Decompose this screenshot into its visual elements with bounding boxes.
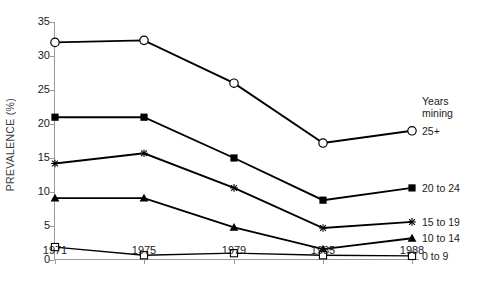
- y-tick-label: 5: [24, 220, 50, 231]
- legend-title-line-1: Years: [422, 95, 453, 108]
- y-axis-title-text: PREVALENCE (%): [4, 98, 16, 191]
- x-tick-label: 1979: [222, 244, 246, 256]
- y-tick-label: 25: [24, 84, 50, 95]
- x-tick-label: 1971: [43, 244, 67, 256]
- legend-title-line-2: mining: [422, 107, 453, 120]
- y-tick-label: 10: [24, 186, 50, 197]
- x-tick-label: 1988: [400, 244, 424, 256]
- legend-title: Yearsmining: [422, 95, 453, 120]
- x-tick-label: 1975: [132, 244, 156, 256]
- legend-entry-0-to-9: 0 to 9: [422, 250, 448, 262]
- legend-entry-25+: 25+: [422, 125, 440, 137]
- y-tick-label: 35: [24, 16, 50, 27]
- x-tick-label: 1985: [311, 244, 335, 256]
- x-axis-tick-labels: 19711975197919851988: [54, 0, 419, 293]
- chart-container: PREVALENCE (%) 05101520253035 1971197519…: [0, 0, 489, 293]
- legend-entry-20-to-24: 20 to 24: [422, 182, 460, 194]
- y-axis-title: PREVALENCE (%): [2, 60, 18, 230]
- legend-entry-10-to-14: 10 to 14: [422, 232, 460, 244]
- legend-entry-15-to-19: 15 to 19: [422, 216, 460, 228]
- y-tick-label: 20: [24, 118, 50, 129]
- y-tick-label: 15: [24, 152, 50, 163]
- y-tick-label: 30: [24, 50, 50, 61]
